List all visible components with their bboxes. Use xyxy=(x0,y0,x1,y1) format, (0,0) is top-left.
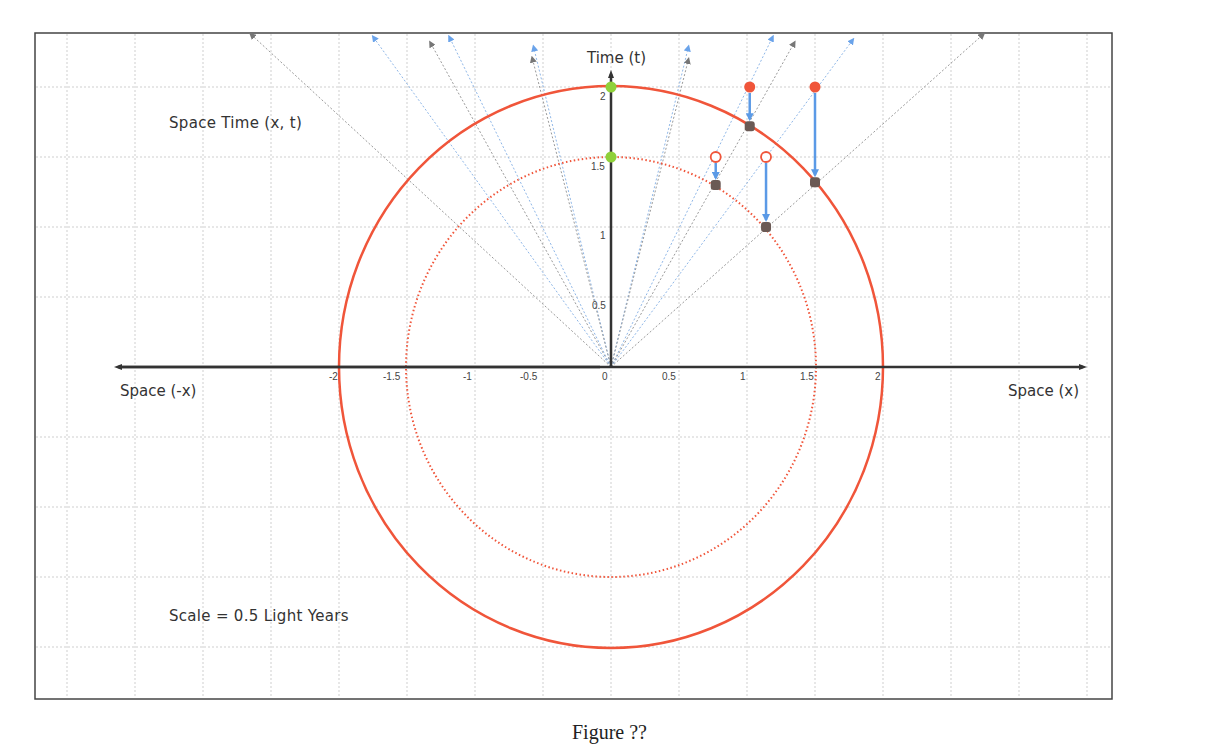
x-tick: -0.5 xyxy=(520,371,537,382)
green-point xyxy=(606,152,617,163)
t-tick: 1.5 xyxy=(591,161,605,172)
x-tick: -1 xyxy=(463,371,472,382)
projected-point xyxy=(711,180,721,190)
figure-caption: Figure ?? xyxy=(0,721,1219,744)
x-negative-label: Space (-x) xyxy=(120,382,196,400)
x-tick: 1.5 xyxy=(800,371,814,382)
t-tick: 0.5 xyxy=(592,300,606,311)
x-tick: -2 xyxy=(329,371,338,382)
x-positive-label: Space (x) xyxy=(1008,382,1079,400)
t-tick: 2 xyxy=(600,91,606,102)
hollow-red-point xyxy=(761,152,771,162)
red-point xyxy=(744,82,755,93)
green-point xyxy=(606,82,617,93)
x-tick: -1.5 xyxy=(383,371,400,382)
red-point xyxy=(810,82,821,93)
projected-point xyxy=(810,177,820,187)
x-tick: 2 xyxy=(875,371,881,382)
x-tick: 0.5 xyxy=(662,371,676,382)
projected-point xyxy=(745,121,755,131)
x-tick: 1 xyxy=(740,371,746,382)
hollow-red-point xyxy=(711,152,721,162)
x-tick: 0 xyxy=(602,371,608,382)
t-tick: 1 xyxy=(600,230,606,241)
diagram-title: Space Time (x, t) xyxy=(169,114,302,132)
scale-note: Scale = 0.5 Light Years xyxy=(169,607,349,625)
t-axis-label: Time (t) xyxy=(587,49,646,67)
projected-point xyxy=(761,222,771,232)
